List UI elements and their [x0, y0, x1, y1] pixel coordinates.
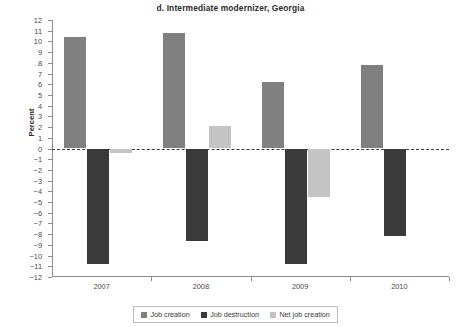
bar-2009-net-job-creation — [308, 149, 330, 197]
y-tick-2: 2 — [48, 127, 52, 128]
y-tick-label: 0 — [38, 144, 42, 153]
y-tick--9: −9 — [48, 245, 52, 246]
x-tick — [251, 277, 252, 281]
y-tick-5: 5 — [48, 95, 52, 96]
y-tick--8: −8 — [48, 234, 52, 235]
bar-2007-job-creation — [64, 37, 86, 148]
y-tick--6: −6 — [48, 213, 52, 214]
plot-area: 1211109876543210−1−2−3−4−5−6−7−8−9−10−11… — [52, 20, 449, 277]
bar-2008-job-creation — [163, 33, 185, 149]
chart-container: d. Intermediate modernizer, Georgia Perc… — [0, 0, 461, 327]
x-tick-label-2008: 2008 — [193, 282, 209, 291]
bar-2010-job-creation — [361, 65, 383, 149]
y-tick-label: 2 — [38, 123, 42, 132]
legend-item-job-destruction[interactable]: Job destruction — [201, 310, 259, 319]
y-tick-label: 3 — [38, 112, 42, 121]
legend-swatch-icon — [201, 312, 207, 318]
y-tick-6: 6 — [48, 84, 52, 85]
y-tick-label: −11 — [30, 262, 42, 271]
bar-2008-net-job-creation — [209, 126, 231, 148]
chart-title: d. Intermediate modernizer, Georgia — [0, 3, 461, 13]
y-tick--4: −4 — [48, 191, 52, 192]
legend-swatch-icon — [141, 312, 147, 318]
y-tick-label: 4 — [38, 101, 42, 110]
bar-2009-job-creation — [262, 82, 284, 148]
y-tick-label: −4 — [34, 187, 42, 196]
y-tick-3: 3 — [48, 116, 52, 117]
y-tick-label: −10 — [29, 251, 42, 260]
bar-2007-job-destruction — [87, 149, 109, 265]
legend-label: Net job creation — [279, 310, 329, 319]
bar-2010-job-destruction — [384, 149, 406, 237]
y-tick-label: 5 — [38, 90, 42, 99]
y-tick-9: 9 — [48, 52, 52, 53]
bar-2009-job-destruction — [285, 149, 307, 265]
y-tick-10: 10 — [48, 41, 52, 42]
x-tick-label-2007: 2007 — [93, 282, 109, 291]
y-tick--3: −3 — [48, 181, 52, 182]
legend-label: Job destruction — [210, 310, 259, 319]
x-tick — [449, 277, 450, 281]
y-tick-label: −7 — [34, 219, 42, 228]
y-tick-12: 12 — [48, 20, 52, 21]
bar-2008-job-destruction — [186, 149, 208, 241]
legend-item-job-creation[interactable]: Job creation — [141, 310, 190, 319]
legend-swatch-icon — [270, 312, 276, 318]
y-tick-label: 1 — [38, 133, 42, 142]
x-tick — [151, 277, 152, 281]
y-tick--12: −12 — [48, 277, 52, 278]
y-tick-label: 6 — [38, 80, 42, 89]
y-tick-1: 1 — [48, 138, 52, 139]
y-tick--1: −1 — [48, 159, 52, 160]
y-tick-4: 4 — [48, 106, 52, 107]
bar-2007-net-job-creation — [110, 149, 132, 153]
y-tick--5: −5 — [48, 202, 52, 203]
y-tick-label: −6 — [34, 208, 42, 217]
y-tick-label: 10 — [34, 37, 42, 46]
y-tick-label: 11 — [34, 26, 42, 35]
y-tick-7: 7 — [48, 74, 52, 75]
y-tick-label: −3 — [34, 176, 42, 185]
legend-item-net-job-creation[interactable]: Net job creation — [270, 310, 330, 319]
y-tick-11: 11 — [48, 31, 52, 32]
y-tick--10: −10 — [48, 256, 52, 257]
x-tick — [350, 277, 351, 281]
y-tick-label: 12 — [34, 16, 42, 25]
y-tick-label: 9 — [38, 48, 42, 57]
y-tick-8: 8 — [48, 63, 52, 64]
y-tick--2: −2 — [48, 170, 52, 171]
y-tick-label: 8 — [38, 58, 42, 67]
x-tick-label-2009: 2009 — [292, 282, 308, 291]
y-tick--11: −11 — [48, 266, 52, 267]
y-tick-label: −9 — [34, 240, 42, 249]
y-tick-label: −2 — [34, 165, 42, 174]
y-axis-label: Percent — [27, 93, 36, 153]
y-tick-label: −1 — [34, 155, 42, 164]
y-tick-label: −5 — [34, 198, 42, 207]
chart-legend: Job creationJob destructionNet job creat… — [133, 306, 338, 323]
legend-label: Job creation — [151, 310, 190, 319]
y-tick-label: −12 — [29, 273, 42, 282]
y-tick--7: −7 — [48, 223, 52, 224]
y-tick-label: 7 — [38, 69, 42, 78]
x-tick-label-2010: 2010 — [391, 282, 407, 291]
y-tick-label: −8 — [34, 230, 42, 239]
